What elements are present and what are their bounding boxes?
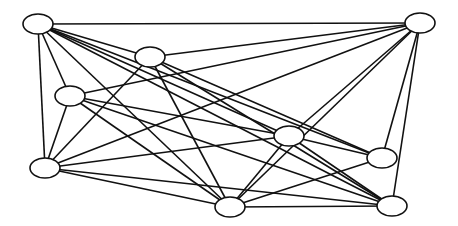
background xyxy=(0,0,458,226)
edge-F-I xyxy=(230,206,392,207)
node-G xyxy=(274,126,304,146)
node-C xyxy=(55,86,85,106)
node-D xyxy=(405,13,435,33)
node-H xyxy=(367,148,397,168)
node-E xyxy=(30,158,60,178)
node-A xyxy=(23,14,53,34)
graph-diagram xyxy=(0,0,458,226)
node-B xyxy=(135,47,165,67)
node-F xyxy=(215,197,245,217)
edge-A-D xyxy=(38,23,420,24)
node-I xyxy=(377,196,407,216)
